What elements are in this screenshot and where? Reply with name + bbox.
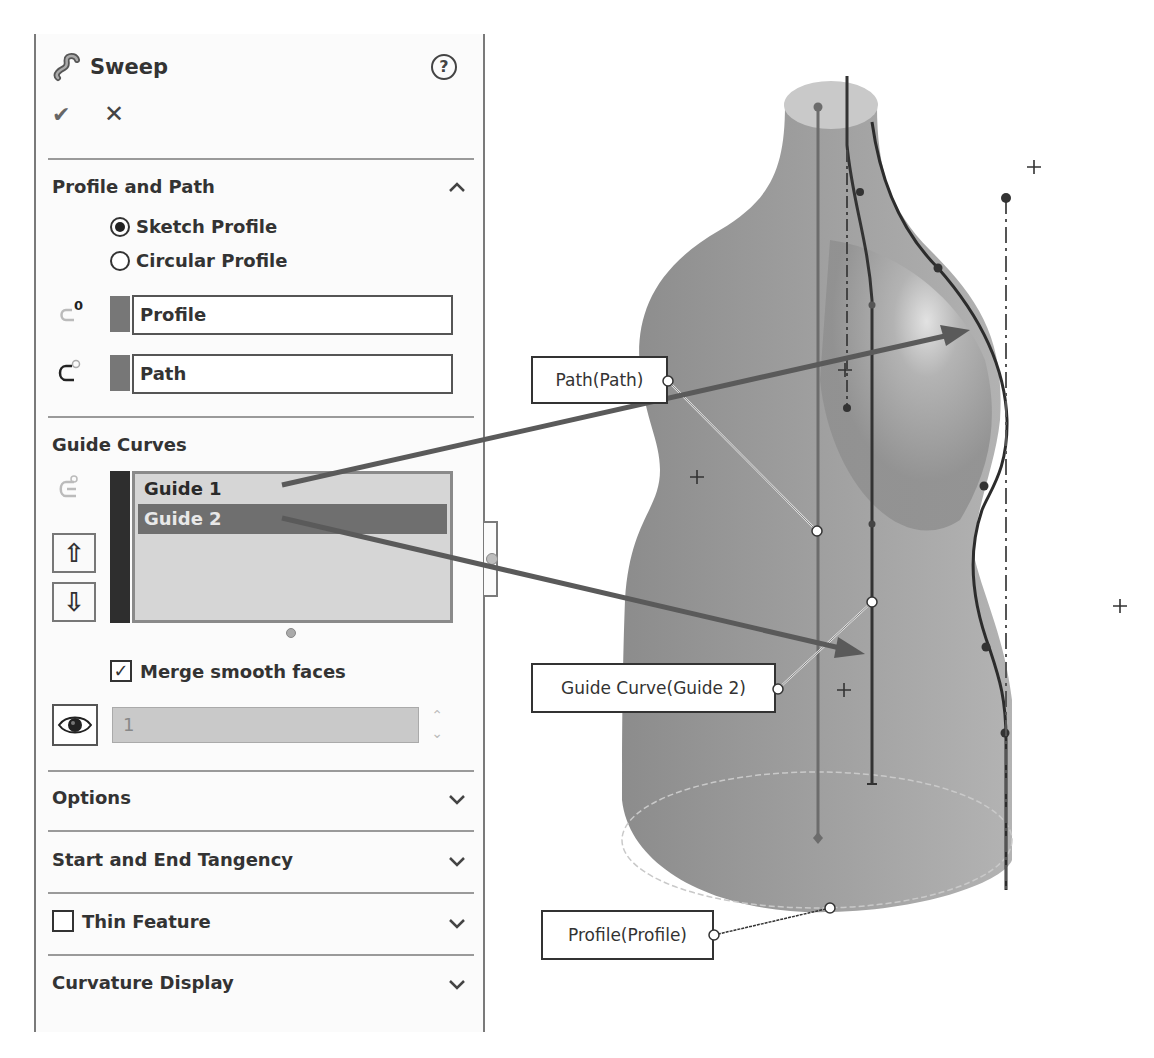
guide-curve-callout[interactable]: Guide Curve(Guide 2) — [531, 663, 776, 713]
path-callout[interactable]: Path(Path) — [531, 356, 668, 404]
profile-callout[interactable]: Profile(Profile) — [541, 910, 714, 960]
graphics-viewport[interactable] — [0, 0, 1154, 1058]
